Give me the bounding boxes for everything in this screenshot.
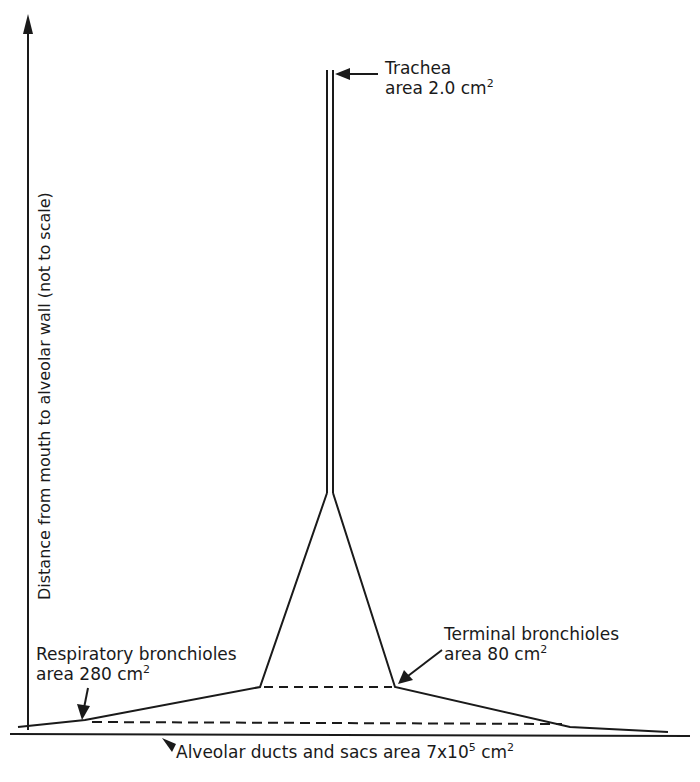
trachea-name: Trachea <box>385 58 494 78</box>
terminal-pointer-line <box>408 650 442 676</box>
respiratory-arrow-icon <box>77 704 90 720</box>
trachea-arrow-icon <box>335 68 350 80</box>
respiratory-area: area 280 cm2 <box>36 664 237 684</box>
terminal-arrow-icon <box>398 670 413 684</box>
respiratory-bronchioles-dashed-line <box>92 722 562 724</box>
terminal-name: Terminal bronchioles <box>444 624 619 644</box>
x-axis <box>10 734 690 736</box>
terminal-bronchioles-label: Terminal bronchioles area 80 cm2 <box>444 624 619 664</box>
trachea-label: Trachea area 2.0 cm2 <box>385 58 494 98</box>
alveolar-ducts-label: Alveolar ducts and sacs area 7x105 cm2 <box>176 742 514 762</box>
terminal-area: area 80 cm2 <box>444 644 619 664</box>
y-axis-label: Distance from mouth to alveolar wall (no… <box>35 192 54 600</box>
y-axis-arrow-icon <box>23 14 33 34</box>
left-profile <box>18 493 327 727</box>
respiratory-name: Respiratory bronchioles <box>36 644 237 664</box>
respiratory-bronchioles-label: Respiratory bronchioles area 280 cm2 <box>36 644 237 684</box>
trachea-area: area 2.0 cm2 <box>385 78 494 98</box>
alveolar-arrow-icon <box>162 738 176 752</box>
right-profile <box>333 493 668 732</box>
respiratory-pointer-line <box>84 688 88 708</box>
